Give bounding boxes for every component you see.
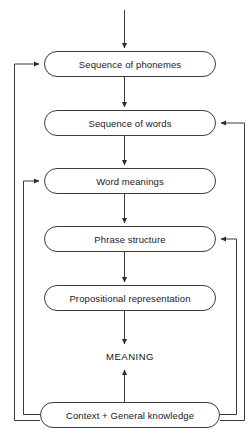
edge-context-to-phonemes <box>15 64 41 421</box>
flowchart-diagram: Sequence of phonemes Sequence of words W… <box>0 0 249 439</box>
diagram-canvas <box>0 0 249 439</box>
node-box-word-meanings <box>45 169 216 194</box>
node-box-words <box>45 111 216 136</box>
node-box-context <box>41 403 220 428</box>
edge-context-to-words <box>220 123 245 421</box>
edge-context-to-word-meanings <box>24 181 41 415</box>
node-label-meaning: MEANING <box>84 347 176 365</box>
edge-context-to-phrase-structure <box>220 239 237 415</box>
node-box-phrase-structure <box>45 227 216 252</box>
node-box-propositional <box>45 286 216 311</box>
node-box-phonemes <box>45 52 216 77</box>
